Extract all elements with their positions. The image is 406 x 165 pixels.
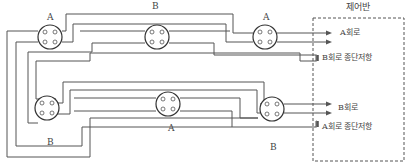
- label-connector-b-bottom-left: B: [47, 138, 54, 147]
- label-connector-a-top-right: A: [263, 13, 270, 22]
- connector-b-bottom-right: [260, 97, 284, 121]
- arrow-icons: [326, 31, 332, 116]
- connector-b-top-middle: [145, 25, 169, 49]
- label-wire-b-top: B: [152, 2, 159, 11]
- connectors: [35, 25, 284, 121]
- arrow-icon: [326, 111, 332, 116]
- output-label-b-terminal-resistor: B회로 종단저항: [322, 54, 372, 62]
- label-connector-a-top-left: A: [47, 13, 54, 22]
- wiring-diagram: [0, 0, 406, 165]
- output-label-a-circuit: A회로: [340, 29, 360, 37]
- output-label-a-terminal-resistor: A회로 종단저항: [322, 123, 372, 131]
- arrow-icon: [326, 102, 332, 107]
- label-wire-b-bottom: B: [270, 143, 277, 152]
- connector-a-bottom-middle: [156, 92, 180, 116]
- connector-a-top-right: [253, 25, 277, 49]
- panel-title: 제어반: [346, 3, 370, 12]
- label-connector-a-bottom-middle: A: [168, 124, 175, 133]
- output-label-b-circuit: B회로: [338, 104, 358, 112]
- control-panel-box: [313, 18, 404, 161]
- connector-b-bottom-left: [35, 96, 59, 120]
- arrow-icon: [326, 31, 332, 36]
- connector-a-top-left: [38, 25, 62, 49]
- arrow-icon: [326, 40, 332, 45]
